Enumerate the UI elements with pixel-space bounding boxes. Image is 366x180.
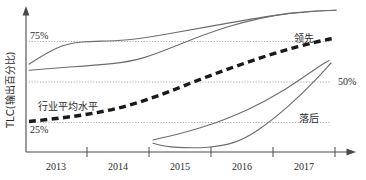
y-tick-label-25: 25% [30, 124, 48, 135]
series-lagging-upper [153, 61, 329, 140]
x-tick-label-2014: 2014 [108, 161, 128, 172]
x-tick-label-2015: 2015 [170, 161, 190, 172]
annotation-lagging: 落后 [299, 113, 319, 124]
x-axis [26, 149, 356, 156]
y-axis-arrow-icon [23, 6, 30, 16]
x-tick-label-2016: 2016 [232, 161, 252, 172]
series-lagging-lower [153, 63, 331, 148]
y-tick-label-75: 75% [30, 30, 48, 41]
annotation-industry-average: 行业平均水平 [38, 100, 98, 112]
right-tick-label-50: 50% [338, 76, 356, 87]
y-axis [23, 6, 30, 152]
x-tick-label-2013: 2013 [46, 161, 66, 172]
series-leading-upper [29, 10, 336, 64]
annotation-leading: 领先 [294, 32, 314, 44]
x-axis-arrow-icon [347, 149, 357, 156]
x-tick-label-2017: 2017 [294, 161, 314, 172]
tlc-output-percentage-line-chart: 75% 25% 50% TLC(输出百分比) 领先 落后 行业平均水平 2013… [0, 0, 366, 180]
y-axis-title: TLC(输出百分比) [4, 51, 16, 129]
chart-container: 75% 25% 50% TLC(输出百分比) 领先 落后 行业平均水平 2013… [0, 0, 366, 180]
series-leading-lower [29, 10, 336, 70]
